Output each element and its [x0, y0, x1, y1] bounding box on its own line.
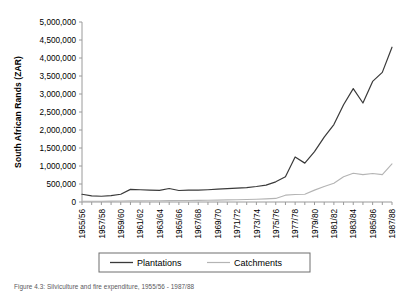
y-axis-tick-label: 4,500,000 — [40, 36, 77, 45]
y-axis: 5,000,0004,500,0004,000,0003,500,0003,00… — [40, 18, 82, 207]
y-axis-title: South African Rands (ZAR) — [13, 56, 23, 168]
x-axis-tick-label: 1961/62 — [136, 209, 145, 239]
x-axis-tick-label: 1955/56 — [78, 209, 87, 239]
x-axis-tick-label: 1973/74 — [253, 209, 262, 239]
figure-caption: Figure 4.3: Silviculture and fire expend… — [14, 283, 194, 290]
y-axis-tick-label: 0 — [71, 198, 76, 207]
x-axis-tick-label: 1985/86 — [369, 209, 378, 239]
legend-label-catchments: Catchments — [234, 258, 283, 268]
x-axis-tick-label: 1975/76 — [272, 209, 281, 239]
x-axis: 1955/561957/581959/601961/621963/641965/… — [78, 202, 397, 239]
x-axis-tick-label: 1965/66 — [175, 209, 184, 239]
x-axis-tick-label: 1957/58 — [98, 209, 107, 239]
x-axis-tick-label: 1981/82 — [330, 209, 339, 239]
y-axis-tick-label: 2,500,000 — [40, 108, 77, 117]
x-axis-tick-label: 1987/88 — [388, 209, 397, 239]
y-axis-tick-label: 2,000,000 — [40, 126, 77, 135]
y-axis-title-label: South African Rands (ZAR) — [13, 56, 23, 168]
y-axis-tick-label: 500,000 — [46, 180, 76, 189]
x-axis-tick-label: 1971/72 — [233, 209, 242, 239]
x-axis-tick-label: 1963/64 — [156, 209, 165, 239]
y-axis-tick-label: 1,000,000 — [40, 162, 77, 171]
y-axis-tick-label: 3,000,000 — [40, 90, 77, 99]
chart-legend: PlantationsCatchments — [99, 253, 310, 272]
y-axis-tick-label: 3,500,000 — [40, 72, 77, 81]
line-chart: 5,000,0004,500,0004,000,0003,500,0003,00… — [0, 0, 409, 291]
plot-background — [82, 22, 392, 202]
x-axis-tick-label: 1969/70 — [214, 209, 223, 239]
y-axis-tick-label: 4,000,000 — [40, 54, 77, 63]
y-axis-tick-label: 5,000,000 — [40, 18, 77, 27]
x-axis-tick-label: 1967/68 — [194, 209, 203, 239]
x-axis-tick-label: 1977/78 — [291, 209, 300, 239]
legend-label-plantations: Plantations — [137, 258, 182, 268]
figure-container: 5,000,0004,500,0004,000,0003,500,0003,00… — [0, 0, 409, 291]
x-axis-tick-label: 1983/84 — [349, 209, 358, 239]
x-axis-tick-label: 1979/80 — [311, 209, 320, 239]
x-axis-tick-label: 1959/60 — [117, 209, 126, 239]
y-axis-tick-label: 1,500,000 — [40, 144, 77, 153]
